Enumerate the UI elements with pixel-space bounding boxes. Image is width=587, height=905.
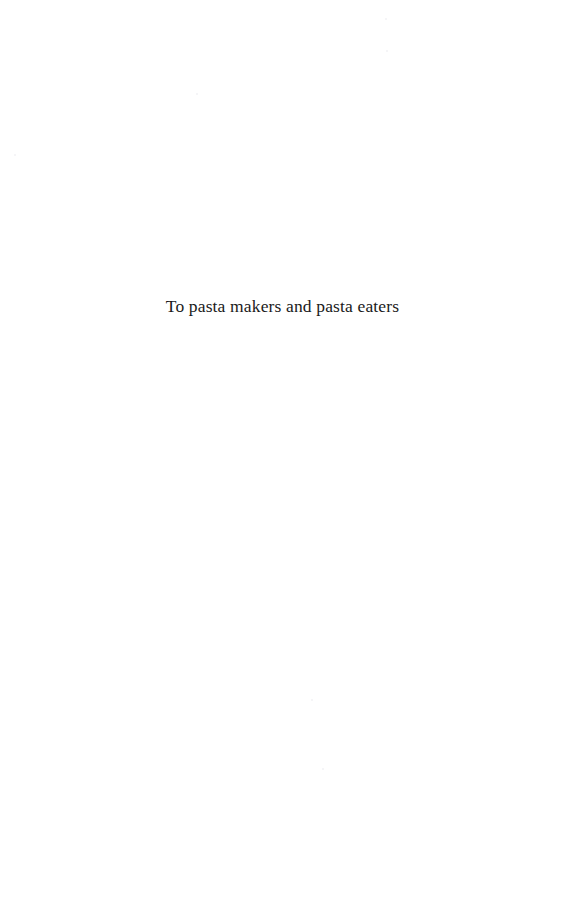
scan-speck (14, 154, 16, 156)
dedication-block: To pasta makers and pasta eaters (0, 296, 565, 316)
scan-speck (385, 18, 387, 20)
scan-speck (311, 699, 313, 701)
dedication-text: To pasta makers and pasta eaters (166, 296, 399, 316)
scan-speck (322, 768, 324, 770)
scan-speck (386, 50, 388, 52)
dedication-page: To pasta makers and pasta eaters (0, 0, 587, 905)
scan-speck (196, 93, 198, 95)
